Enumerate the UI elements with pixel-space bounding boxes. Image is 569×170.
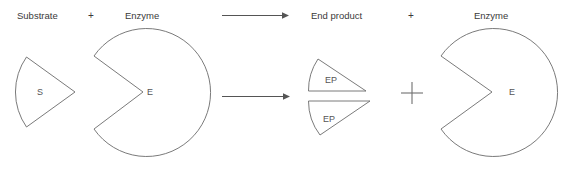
enzyme-left-shape-label: E — [147, 87, 153, 97]
diagram-canvas: Substrate + Enzyme End product + Enzyme … — [0, 0, 569, 170]
end-product-bottom-shape: EP — [309, 101, 371, 135]
end-product-top-label: EP — [325, 75, 337, 85]
end-product-top-shape: EP — [308, 59, 366, 91]
plus-sign-right: + — [408, 10, 414, 21]
substrate-shape-label: S — [37, 87, 43, 97]
plus-sign-left: + — [88, 10, 94, 21]
reaction-arrow-bottom — [222, 93, 290, 100]
reaction-arrow-top — [222, 12, 289, 19]
arrow-bottom-head — [283, 93, 290, 100]
products-plus-sign — [401, 82, 423, 104]
enzyme-reaction-diagram: Substrate + Enzyme End product + Enzyme … — [0, 0, 569, 170]
enzyme-right-shape: E — [441, 29, 558, 157]
end-product-top-path — [308, 59, 366, 91]
label-substrate: Substrate — [17, 10, 58, 21]
label-enzyme-left: Enzyme — [125, 10, 159, 21]
enzyme-right-path — [441, 29, 558, 157]
end-product-bottom-label: EP — [323, 114, 335, 124]
substrate-wedge-path — [15, 57, 75, 127]
label-end-product: End product — [311, 10, 363, 21]
end-product-bottom-path — [309, 101, 371, 135]
enzyme-right-shape-label: E — [509, 87, 515, 97]
arrow-top-head — [282, 12, 289, 19]
substrate-shape: S — [15, 57, 75, 127]
enzyme-left-shape: E — [94, 29, 211, 157]
label-enzyme-right: Enzyme — [474, 10, 508, 21]
